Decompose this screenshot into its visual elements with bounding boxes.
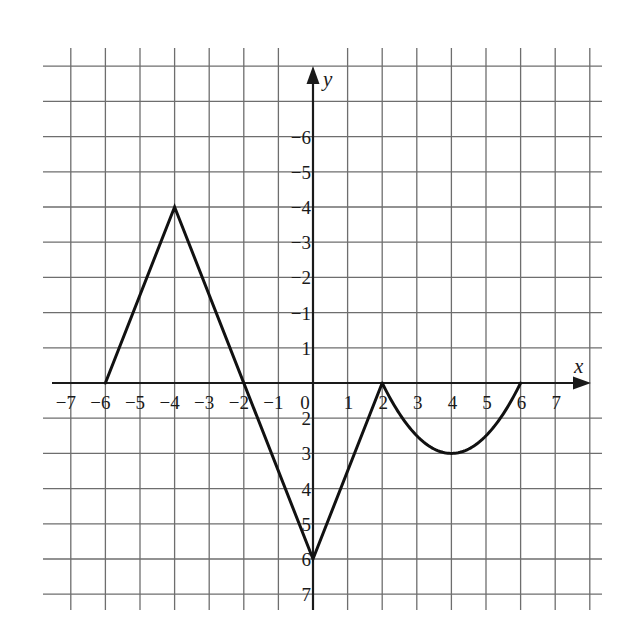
y-tick-label: 2 [302,408,312,429]
x-tick-label: −4 [159,392,180,413]
y-tick-label: −2 [291,267,311,288]
y-tick-label: −5 [291,162,311,183]
y-tick-label: −3 [291,232,311,253]
x-tick-label: 2 [378,392,388,413]
x-tick-label: −3 [194,392,214,413]
x-tick-label: 7 [551,392,561,413]
x-axis-label: x [573,354,584,378]
axes: x y [52,66,591,610]
y-axis-arrow-icon [307,66,320,84]
y-tick-label: 1 [302,338,312,359]
x-tick-label: −2 [229,392,249,413]
y-tick-label: 7 [302,584,312,605]
x-tick-label: 5 [482,392,492,413]
function-graph: x y −7−6−5−4−3−2−1123456707654321−1−2−3−… [0,0,630,643]
y-tick-label: −6 [291,127,311,148]
x-tick-label: 4 [448,392,458,413]
y-tick-label: −1 [291,303,311,324]
y-tick-label: 3 [302,443,312,464]
x-tick-label: 1 [344,392,354,413]
x-tick-label: −7 [56,392,76,413]
tick-labels: −7−6−5−4−3−2−1123456707654321−1−2−3−4−5−… [56,127,561,606]
x-tick-label: 3 [413,392,423,413]
x-tick-label: −1 [263,392,283,413]
x-tick-label: −6 [90,392,110,413]
x-tick-label: −5 [125,392,145,413]
y-tick-label: −4 [291,197,312,218]
x-axis-arrow-icon [573,377,591,390]
y-axis-label: y [321,67,333,91]
y-tick-label: 4 [302,479,312,500]
x-tick-label: 6 [517,392,527,413]
